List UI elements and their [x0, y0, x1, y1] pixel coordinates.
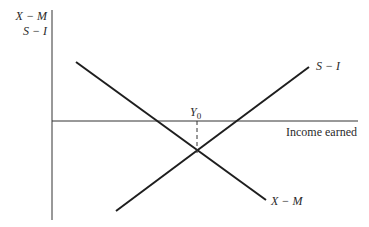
- x-axis-label: Income earned: [286, 125, 357, 139]
- y-axis-label-x-minus-m: X − M: [15, 9, 48, 23]
- s-minus-i-curve: [116, 67, 309, 211]
- x-minus-m-label: X − M: [270, 194, 303, 208]
- x-minus-m-curve: [76, 62, 266, 200]
- diagram-canvas: X − M S − I Y0 Income earned S − I X − M: [0, 0, 369, 227]
- equilibrium-label: Y0: [190, 105, 202, 121]
- y-axis-label-s-minus-i: S − I: [23, 24, 48, 38]
- equilibrium-subscript: 0: [197, 111, 202, 121]
- s-minus-i-label: S − I: [316, 59, 341, 73]
